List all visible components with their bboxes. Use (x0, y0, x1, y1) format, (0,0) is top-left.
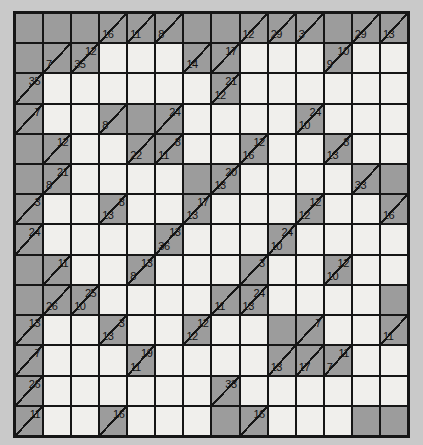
entry-cell[interactable] (100, 377, 126, 405)
entry-cell[interactable] (100, 225, 126, 253)
entry-cell[interactable] (297, 74, 323, 102)
entry-cell[interactable] (353, 286, 379, 314)
entry-cell[interactable] (325, 165, 351, 193)
entry-cell[interactable] (381, 44, 407, 72)
entry-cell[interactable] (212, 256, 238, 284)
entry-cell[interactable] (184, 74, 210, 102)
entry-cell[interactable] (241, 377, 267, 405)
entry-cell[interactable] (297, 225, 323, 253)
entry-cell[interactable] (241, 165, 267, 193)
entry-cell[interactable] (381, 135, 407, 163)
entry-cell[interactable] (325, 105, 351, 133)
entry-cell[interactable] (128, 165, 154, 193)
entry-cell[interactable] (100, 256, 126, 284)
entry-cell[interactable] (381, 225, 407, 253)
entry-cell[interactable] (128, 407, 154, 435)
entry-cell[interactable] (353, 377, 379, 405)
entry-cell[interactable] (353, 225, 379, 253)
entry-cell[interactable] (212, 225, 238, 253)
entry-cell[interactable] (156, 195, 182, 223)
entry-cell[interactable] (128, 195, 154, 223)
entry-cell[interactable] (353, 346, 379, 374)
entry-cell[interactable] (241, 44, 267, 72)
entry-cell[interactable] (381, 346, 407, 374)
entry-cell[interactable] (128, 377, 154, 405)
entry-cell[interactable] (297, 165, 323, 193)
entry-cell[interactable] (100, 74, 126, 102)
entry-cell[interactable] (212, 135, 238, 163)
entry-cell[interactable] (72, 225, 98, 253)
entry-cell[interactable] (381, 105, 407, 133)
entry-cell[interactable] (325, 407, 351, 435)
entry-cell[interactable] (100, 165, 126, 193)
entry-cell[interactable] (184, 346, 210, 374)
entry-cell[interactable] (297, 377, 323, 405)
entry-cell[interactable] (353, 135, 379, 163)
entry-cell[interactable] (44, 407, 70, 435)
entry-cell[interactable] (212, 105, 238, 133)
entry-cell[interactable] (44, 105, 70, 133)
entry-cell[interactable] (72, 377, 98, 405)
entry-cell[interactable] (269, 165, 295, 193)
entry-cell[interactable] (325, 225, 351, 253)
entry-cell[interactable] (72, 74, 98, 102)
entry-cell[interactable] (184, 377, 210, 405)
entry-cell[interactable] (44, 74, 70, 102)
entry-cell[interactable] (241, 225, 267, 253)
entry-cell[interactable] (353, 105, 379, 133)
entry-cell[interactable] (156, 256, 182, 284)
entry-cell[interactable] (128, 44, 154, 72)
entry-cell[interactable] (184, 105, 210, 133)
entry-cell[interactable] (100, 135, 126, 163)
entry-cell[interactable] (128, 74, 154, 102)
entry-cell[interactable] (156, 165, 182, 193)
entry-cell[interactable] (269, 195, 295, 223)
entry-cell[interactable] (72, 135, 98, 163)
entry-cell[interactable] (269, 44, 295, 72)
entry-cell[interactable] (269, 256, 295, 284)
entry-cell[interactable] (297, 44, 323, 72)
entry-cell[interactable] (72, 195, 98, 223)
entry-cell[interactable] (72, 346, 98, 374)
entry-cell[interactable] (128, 316, 154, 344)
entry-cell[interactable] (184, 135, 210, 163)
entry-cell[interactable] (100, 44, 126, 72)
entry-cell[interactable] (156, 74, 182, 102)
entry-cell[interactable] (241, 346, 267, 374)
entry-cell[interactable] (241, 316, 267, 344)
entry-cell[interactable] (353, 74, 379, 102)
entry-cell[interactable] (269, 74, 295, 102)
entry-cell[interactable] (184, 286, 210, 314)
entry-cell[interactable] (184, 407, 210, 435)
entry-cell[interactable] (72, 256, 98, 284)
entry-cell[interactable] (325, 377, 351, 405)
entry-cell[interactable] (128, 286, 154, 314)
entry-cell[interactable] (156, 286, 182, 314)
entry-cell[interactable] (325, 286, 351, 314)
entry-cell[interactable] (353, 256, 379, 284)
entry-cell[interactable] (72, 165, 98, 193)
entry-cell[interactable] (156, 407, 182, 435)
entry-cell[interactable] (212, 195, 238, 223)
entry-cell[interactable] (353, 316, 379, 344)
entry-cell[interactable] (100, 286, 126, 314)
entry-cell[interactable] (325, 316, 351, 344)
entry-cell[interactable] (269, 286, 295, 314)
entry-cell[interactable] (72, 105, 98, 133)
entry-cell[interactable] (297, 135, 323, 163)
entry-cell[interactable] (269, 135, 295, 163)
entry-cell[interactable] (156, 377, 182, 405)
entry-cell[interactable] (381, 74, 407, 102)
entry-cell[interactable] (44, 346, 70, 374)
entry-cell[interactable] (100, 346, 126, 374)
entry-cell[interactable] (297, 407, 323, 435)
entry-cell[interactable] (269, 377, 295, 405)
entry-cell[interactable] (128, 225, 154, 253)
entry-cell[interactable] (44, 316, 70, 344)
entry-cell[interactable] (44, 225, 70, 253)
entry-cell[interactable] (212, 316, 238, 344)
entry-cell[interactable] (325, 74, 351, 102)
entry-cell[interactable] (297, 286, 323, 314)
entry-cell[interactable] (241, 105, 267, 133)
entry-cell[interactable] (241, 74, 267, 102)
